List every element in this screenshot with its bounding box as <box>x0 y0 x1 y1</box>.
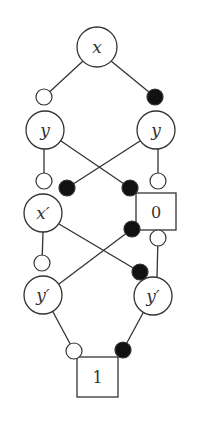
node-t1: 1 <box>77 357 118 397</box>
node-yL: y <box>26 111 64 149</box>
complement-dot-icon <box>59 180 75 196</box>
edge-ypL-to-t0 <box>59 229 132 284</box>
node-label: y′ <box>145 286 160 306</box>
complement-dot-icon <box>122 180 138 196</box>
regular-edge-dot-icon <box>36 173 52 189</box>
node-label: y <box>150 120 161 140</box>
complement-dot-icon <box>115 342 131 358</box>
node-yR: y <box>137 111 175 149</box>
regular-edge-dot-icon <box>150 230 166 246</box>
node-label: x <box>92 37 102 57</box>
regular-edge-dot-icon <box>66 343 82 359</box>
node-label: y <box>39 120 50 140</box>
nodes-layer: xyyx′0y′y′1 <box>24 27 176 397</box>
node-xp: x′ <box>24 194 62 232</box>
complement-dot-icon <box>124 221 140 237</box>
regular-edge-dot-icon <box>150 173 166 189</box>
node-label: x′ <box>36 203 50 223</box>
node-t0: 0 <box>136 193 176 230</box>
node-label: 1 <box>92 368 102 387</box>
node-ypR: y′ <box>134 277 172 315</box>
node-x: x <box>77 27 117 67</box>
decision-diagram: xyyx′0y′y′1 <box>0 0 204 421</box>
regular-edge-dot-icon <box>34 255 50 271</box>
node-ypL: y′ <box>24 276 62 314</box>
node-label: 0 <box>151 203 161 222</box>
complement-dot-icon <box>147 89 163 105</box>
complement-dot-icon <box>132 264 148 280</box>
node-label: y′ <box>35 285 50 305</box>
regular-edge-dot-icon <box>36 89 52 105</box>
